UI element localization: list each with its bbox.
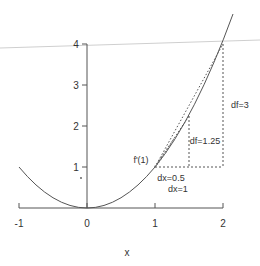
y-tick-3: 3 <box>73 80 79 91</box>
x-tick-2: 2 <box>220 218 226 229</box>
x-tick-0: 0 <box>84 218 90 229</box>
label-fprime: f'(1) <box>133 155 148 165</box>
y-axis: 4 3 2 1 <box>73 39 87 208</box>
x-tick--1: -1 <box>15 218 24 229</box>
label-df125: df=1.25 <box>190 136 220 146</box>
label-dx05: dx=0.5 <box>157 173 184 183</box>
y-tick-4: 4 <box>73 39 79 50</box>
label-dx1: dx=1 <box>168 184 188 194</box>
y-tick-2: 2 <box>73 121 79 132</box>
y-tick-1: 1 <box>73 162 79 173</box>
x-tick-1: 1 <box>152 218 158 229</box>
chart: 4 3 2 1 -1 0 1 2 x f'(1) dx=0.5 dx=1 df=… <box>0 0 260 266</box>
x-axis: -1 0 1 2 x <box>15 203 227 258</box>
label-df3: df=3 <box>231 100 249 110</box>
x-axis-label: x <box>125 247 130 258</box>
stray-dot <box>80 177 82 179</box>
curve-x-squared <box>19 14 233 208</box>
